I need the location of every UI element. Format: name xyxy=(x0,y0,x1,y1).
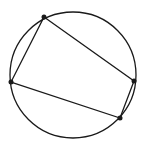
vertex-point-C xyxy=(118,116,123,121)
geometry-figure xyxy=(0,0,144,147)
vertex-point-B xyxy=(132,79,137,84)
vertex-point-D xyxy=(9,80,14,85)
inscribed-quadrilateral xyxy=(11,17,134,118)
vertex-point-A xyxy=(42,15,47,20)
circle xyxy=(10,12,136,138)
